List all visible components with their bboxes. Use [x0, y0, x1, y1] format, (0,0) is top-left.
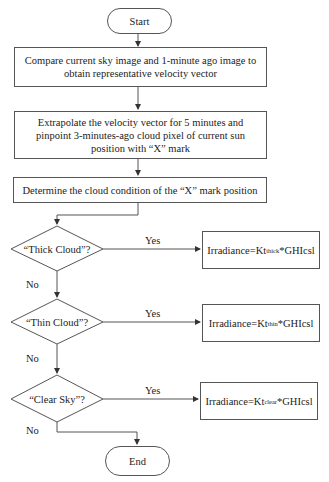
end-terminal: End: [105, 446, 170, 476]
end-label: End: [129, 456, 146, 467]
decision-thick-cloud-text: “Thick Cloud”?: [24, 244, 91, 255]
step-determine-condition: Determine the cloud condition of the “X”…: [13, 177, 267, 203]
start-terminal: Start: [107, 8, 172, 34]
outcome-clear-sky: Irradiance=Ktclear*GHIcsl: [200, 382, 318, 420]
outcome-thick-cloud: Irradiance=Ktthick*GHIcsl: [202, 231, 320, 269]
step-compare-images: Compare current sky image and 1-minute a…: [14, 47, 267, 87]
no-label-thin: No: [26, 353, 39, 364]
start-label: Start: [130, 16, 150, 27]
yes-label-clear: Yes: [145, 385, 160, 396]
no-label-clear: No: [26, 425, 39, 436]
decision-clear-sky-text: “Clear Sky”?: [29, 394, 85, 405]
yes-label-thin: Yes: [145, 308, 160, 319]
decision-thin-cloud-text: “Thin Cloud”?: [26, 317, 88, 328]
outcome-thin-cloud: Irradiance=Ktthin*GHIcsl: [202, 304, 320, 342]
step-extrapolate-vector: Extrapolate the velocity vector for 5 mi…: [14, 111, 267, 159]
no-label-thick: No: [26, 279, 39, 290]
yes-label-thick: Yes: [145, 235, 160, 246]
